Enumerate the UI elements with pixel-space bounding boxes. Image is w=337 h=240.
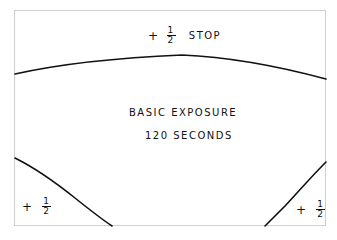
fraction-denominator: 2 <box>168 36 175 45</box>
stop-unit: STOP <box>189 30 221 41</box>
top-region-label: + 1 2 STOP <box>148 26 221 45</box>
top-boundary-curve <box>15 55 326 79</box>
plus-sign: + <box>296 203 308 217</box>
bottom-right-region-label: + 1 2 <box>296 199 325 219</box>
half-fraction: 1 2 <box>167 26 176 45</box>
plus-sign: + <box>22 200 34 214</box>
bottom-left-region-label: + 1 2 <box>22 196 51 216</box>
half-fraction: 1 2 <box>42 197 51 216</box>
fraction-denominator: 2 <box>43 207 50 216</box>
exposure-time: 120 SECONDS <box>145 130 233 141</box>
fraction-denominator: 2 <box>317 210 324 219</box>
half-fraction: 1 2 <box>316 200 325 219</box>
basic-exposure-title: BASIC EXPOSURE <box>129 107 237 118</box>
plus-sign: + <box>148 29 160 43</box>
